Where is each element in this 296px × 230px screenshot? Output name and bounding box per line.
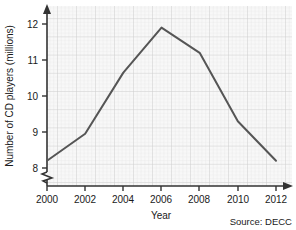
x-tick-label-2012: 2012 bbox=[265, 194, 288, 205]
x-tick-label-2006: 2006 bbox=[150, 194, 173, 205]
y-tick-label-12: 12 bbox=[27, 19, 39, 30]
y-axis-title: Number of CD players (millions) bbox=[4, 25, 15, 167]
x-tick-label-2010: 2010 bbox=[227, 194, 250, 205]
x-tick-label-2008: 2008 bbox=[188, 194, 211, 205]
y-tick-label-11: 11 bbox=[28, 55, 39, 66]
y-tick-label-10: 10 bbox=[27, 91, 39, 102]
line-chart: 12 11 10 9 8 2000 2002 2004 2006 2008 20… bbox=[0, 0, 296, 230]
y-tick-label-9: 9 bbox=[32, 127, 38, 138]
x-tick-label-2004: 2004 bbox=[112, 194, 135, 205]
x-axis-title: Year bbox=[151, 210, 172, 221]
y-tick-label-8: 8 bbox=[32, 163, 38, 174]
x-tick-label-2000: 2000 bbox=[36, 194, 59, 205]
x-tick-label-2002: 2002 bbox=[74, 194, 97, 205]
chart-canvas: 12 11 10 9 8 2000 2002 2004 2006 2008 20… bbox=[0, 0, 296, 230]
source-annotation: Source: DECC bbox=[230, 216, 292, 227]
